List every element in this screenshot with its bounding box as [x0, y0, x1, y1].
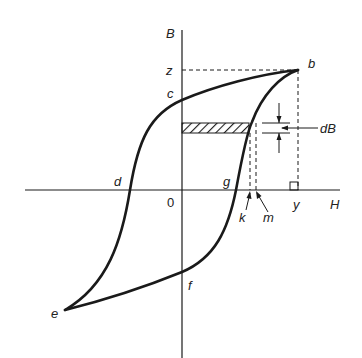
right-angle-marker [290, 182, 298, 190]
point-label-b: b [308, 56, 315, 71]
db-leader-arrowhead [281, 126, 288, 131]
point-label-e: e [51, 306, 58, 321]
point-label-f: f [188, 278, 193, 293]
point-label-c: c [167, 86, 174, 101]
db-label: dB [320, 121, 336, 136]
point-label-g: g [223, 174, 231, 189]
axis-label-h: H [330, 197, 340, 212]
hatched-band [182, 123, 249, 133]
m-pointer-head [256, 191, 262, 199]
hysteresis-diagram: B H 0 z b c d e f g k m y dB [0, 0, 362, 358]
point-label-d: d [114, 174, 122, 189]
db-arrow-bottom-head [277, 133, 282, 140]
db-arrow-top-head [277, 116, 282, 123]
point-label-z: z [165, 63, 173, 78]
point-label-k: k [239, 210, 247, 225]
point-label-y: y [292, 197, 301, 212]
origin-label: 0 [167, 195, 174, 210]
axis-label-b: B [166, 26, 175, 41]
point-label-m: m [263, 210, 274, 225]
k-pointer-head [247, 191, 252, 199]
